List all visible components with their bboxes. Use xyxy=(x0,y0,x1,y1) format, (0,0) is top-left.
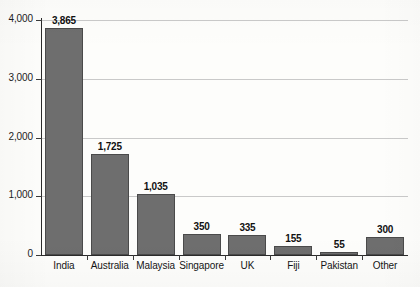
gridline-2000 xyxy=(41,138,408,139)
y-axis-tick-label: 4,000 xyxy=(0,13,33,24)
bar-uk xyxy=(228,235,266,255)
y-tick-mark-3000 xyxy=(36,79,42,80)
bar-australia xyxy=(91,154,129,255)
y-axis-tick-label: 1,000 xyxy=(0,189,33,200)
y-tick-mark-2000 xyxy=(36,138,42,139)
bar-chart: 01,0002,0003,0004,0003,865India1,725Aust… xyxy=(0,0,420,287)
gridline-4000 xyxy=(41,20,408,21)
y-axis-tick-label: 3,000 xyxy=(0,72,33,83)
y-axis-tick-label: 2,000 xyxy=(0,131,33,142)
bar-malaysia xyxy=(137,194,175,255)
bar-value-label-pakistan: 55 xyxy=(309,239,369,250)
bar-value-label-australia: 1,725 xyxy=(80,141,140,152)
bar-value-label-other: 300 xyxy=(355,224,415,235)
bar-india xyxy=(45,28,83,255)
bar-value-label-india: 3,865 xyxy=(34,15,94,26)
bar-singapore xyxy=(183,234,221,255)
bar-other xyxy=(366,237,404,255)
bar-value-label-malaysia: 1,035 xyxy=(126,181,186,192)
x-axis-category-label-other: Other xyxy=(345,260,420,271)
gridline-3000 xyxy=(41,79,408,80)
bar-fiji xyxy=(274,246,312,255)
bar-value-label-uk: 335 xyxy=(217,222,277,233)
y-axis-tick-label: 0 xyxy=(0,248,33,259)
plot-area: 01,0002,0003,0004,0003,865India1,725Aust… xyxy=(0,0,420,287)
y-tick-mark-1000 xyxy=(36,196,42,197)
